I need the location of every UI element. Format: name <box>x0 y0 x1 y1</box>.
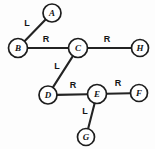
tree-diagram-canvas: LRRLRRL ABCHDEFG <box>0 0 155 149</box>
node-label-h: H <box>135 43 144 53</box>
edge-label-d-e: R <box>70 80 77 90</box>
edge-label-e-g: L <box>82 106 88 116</box>
edge-labels-group: LRRLRRL <box>24 18 122 116</box>
node-label-b: B <box>14 43 21 53</box>
tree-node-h: H <box>132 40 149 57</box>
tree-edge-e-f <box>106 93 131 94</box>
node-label-e: E <box>93 89 100 99</box>
tree-node-f: F <box>131 85 148 102</box>
tree-node-b: B <box>9 39 28 58</box>
node-label-d: D <box>44 90 52 100</box>
tree-node-a: A <box>43 4 61 22</box>
node-label-c: C <box>75 43 82 53</box>
node-label-f: F <box>135 88 142 98</box>
edge-label-b-c: R <box>43 34 50 44</box>
tree-edge-e-g <box>88 103 95 130</box>
edge-label-e-f: R <box>115 78 122 88</box>
edges-group <box>24 19 132 129</box>
node-label-g: G <box>83 132 90 142</box>
tree-edge-d-e <box>56 94 88 95</box>
node-label-a: A <box>48 8 55 18</box>
tree-node-e: E <box>88 85 107 104</box>
tree-node-d: D <box>39 86 57 104</box>
tree-diagram: LRRLRRL ABCHDEFG <box>0 0 155 149</box>
edge-label-b-a: L <box>24 18 30 28</box>
tree-node-c: C <box>69 39 88 58</box>
edge-label-c-d: L <box>54 61 60 71</box>
tree-node-g: G <box>78 129 95 146</box>
edge-label-c-h: R <box>104 34 111 44</box>
